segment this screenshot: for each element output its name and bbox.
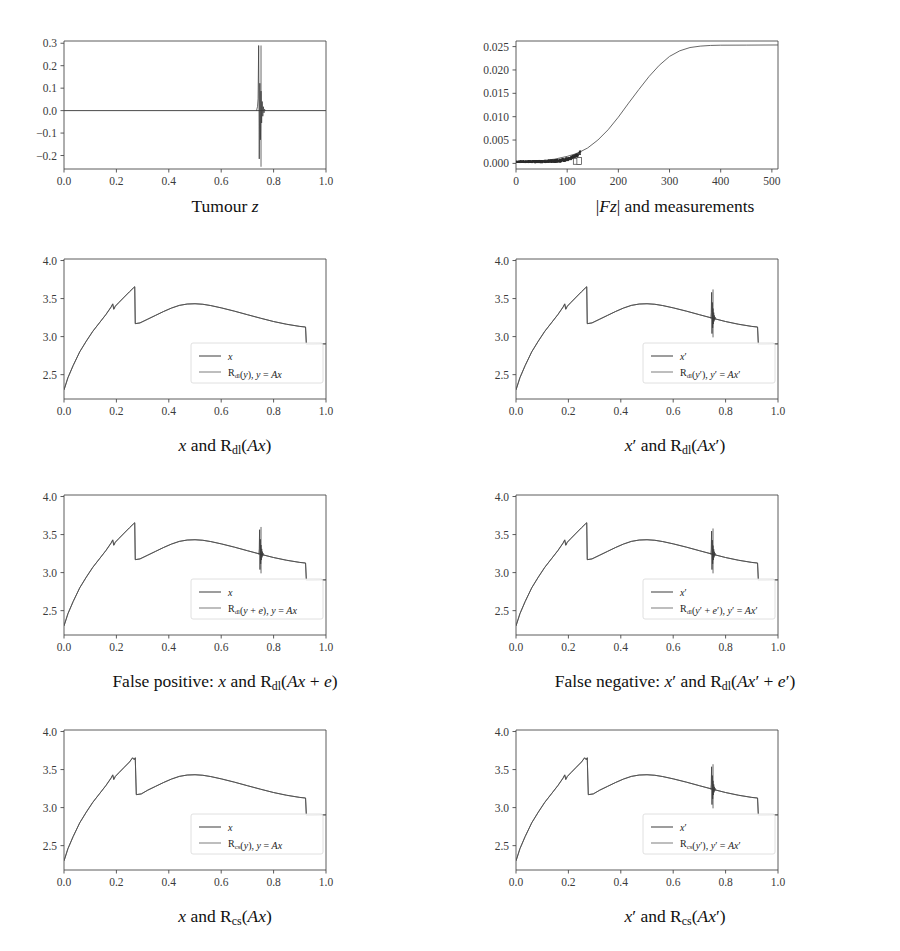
legend[interactable]: x′Rcs(y′), y′ = Ax′ — [643, 814, 775, 854]
legend-label: x′ — [679, 351, 687, 362]
x-tick-label: 0.8 — [718, 641, 733, 653]
y-tick-label: 2.5 — [495, 605, 510, 617]
x-tick-label: 200 — [610, 175, 628, 187]
y-tick-label: 2.5 — [495, 840, 510, 852]
x-tick-label: 1.0 — [319, 641, 334, 653]
subplot-x-and-Rdl-Ax: 0.00.20.40.60.81.04.03.53.02.5xRdl(y), y… — [0, 232, 450, 457]
subplot-caption-xp-and-Rdl-Axp: x′ and Rdl(Ax′) — [450, 437, 900, 457]
y-tick-label: 4.0 — [43, 255, 58, 267]
subplot-x-and-Rcs-Ax: 0.00.20.40.60.81.04.03.53.02.5xRcs(y), y… — [0, 703, 450, 928]
y-tick-label: 4.0 — [495, 491, 510, 503]
y-tick-label: 4.0 — [495, 255, 510, 267]
y-tick-label: 0.3 — [43, 37, 58, 49]
y-tick-label: −0.1 — [36, 127, 57, 139]
y-tick-label: 2.5 — [495, 369, 510, 381]
legend[interactable]: x′Rdl(y′), y′ = Ax′ — [643, 343, 775, 383]
x-tick-label: 0.8 — [266, 405, 281, 417]
x-tick-label: 500 — [763, 175, 781, 187]
subplot-caption-x-and-Rcs-Ax: x and Rcs(Ax) — [0, 908, 450, 928]
y-tick-label: 4.0 — [495, 726, 510, 738]
y-tick-label: 3.5 — [43, 764, 58, 776]
plot-area-false-positive: 0.00.20.40.60.81.04.03.53.02.5xRdl(y + e… — [0, 468, 450, 673]
x-tick-label: 1.0 — [771, 641, 786, 653]
y-tick-label: 0.025 — [483, 41, 509, 53]
fz-curve — [516, 45, 778, 162]
legend-label: x — [227, 587, 233, 598]
subplot-caption-tumour-z: Tumour z — [0, 198, 450, 216]
x-tick-label: 0.6 — [666, 876, 681, 888]
x-tick-label: 0.6 — [214, 405, 229, 417]
legend[interactable]: x′Rdl(y′ + e′), y′ = Ax′ — [643, 579, 775, 619]
subplot-caption-Fz-and-measurements: |Fz| and measurements — [450, 198, 900, 216]
plot-area-false-negative: 0.00.20.40.60.81.04.03.53.02.5x′Rdl(y′ +… — [450, 468, 900, 673]
x-tick-label: 0.2 — [109, 641, 124, 653]
x-tick-label: 0.0 — [509, 405, 524, 417]
y-tick-label: 3.0 — [495, 331, 510, 343]
y-tick-label: 2.5 — [43, 605, 58, 617]
plot-area-x-and-Rdl-Ax: 0.00.20.40.60.81.04.03.53.02.5xRdl(y), y… — [0, 232, 450, 437]
subplot-Fz-and-measurements: 01002003004005000.0250.0200.0150.0100.00… — [450, 0, 900, 216]
x-tick-label: 1.0 — [771, 405, 786, 417]
x-tick-label: 0.6 — [214, 175, 229, 187]
legend[interactable]: xRdl(y + e), y = Ax — [191, 579, 323, 619]
legend-label: x′ — [679, 822, 687, 833]
legend-label: x′ — [679, 587, 687, 598]
y-tick-label: 0.0 — [43, 105, 58, 117]
y-tick-label: −0.2 — [36, 150, 57, 162]
x-tick-label: 0.4 — [162, 876, 177, 888]
x-tick-label: 0.0 — [57, 876, 72, 888]
y-tick-label: 3.5 — [495, 764, 510, 776]
plot-area-Fz-and-measurements: 01002003004005000.0250.0200.0150.0100.00… — [450, 0, 900, 200]
x-tick-label: 0.4 — [162, 175, 177, 187]
subplot-caption-xp-and-Rcs-Axp: x′ and Rcs(Ax′) — [450, 908, 900, 928]
x-tick-label: 0.0 — [509, 876, 524, 888]
x-tick-label: 0.8 — [718, 876, 733, 888]
x-tick-label: 0.4 — [614, 405, 629, 417]
y-tick-label: 2.5 — [43, 369, 58, 381]
x-tick-label: 0.0 — [57, 175, 72, 187]
y-tick-label: 0.005 — [483, 134, 509, 146]
y-tick-label: 3.5 — [495, 529, 510, 541]
legend-label: x — [227, 351, 233, 362]
x-tick-label: 0.4 — [162, 641, 177, 653]
subplot-tumour-z: 0.00.20.40.60.81.00.30.20.10.0−0.1−0.2Tu… — [0, 0, 450, 216]
y-tick-label: 2.5 — [43, 840, 58, 852]
figure-root: 0.00.20.40.60.81.00.30.20.10.0−0.1−0.2Tu… — [0, 0, 900, 951]
x-tick-label: 0.2 — [109, 175, 124, 187]
plot-area-tumour-z: 0.00.20.40.60.81.00.30.20.10.0−0.1−0.2 — [0, 0, 450, 200]
x-tick-label: 0.6 — [214, 876, 229, 888]
x-tick-label: 1.0 — [319, 405, 334, 417]
x-tick-label: 0.6 — [666, 405, 681, 417]
y-tick-label: 3.0 — [495, 802, 510, 814]
plot-area-xp-and-Rdl-Axp: 0.00.20.40.60.81.04.03.53.02.5x′Rdl(y′),… — [450, 232, 900, 437]
y-tick-label: 4.0 — [43, 491, 58, 503]
legend-label: x — [227, 822, 233, 833]
x-tick-label: 1.0 — [319, 876, 334, 888]
y-tick-label: 0.000 — [483, 157, 509, 169]
x-tick-label: 0.4 — [162, 405, 177, 417]
y-tick-label: 3.0 — [43, 331, 58, 343]
subplot-caption-x-and-Rdl-Ax: x and Rdl(Ax) — [0, 437, 450, 457]
axes-frame — [64, 41, 326, 169]
x-tick-label: 0.2 — [109, 405, 124, 417]
x-tick-label: 0.2 — [561, 405, 576, 417]
legend[interactable]: xRcs(y), y = Ax — [191, 814, 323, 854]
x-tick-label: 1.0 — [771, 876, 786, 888]
x-tick-label: 0.8 — [266, 876, 281, 888]
subplot-xp-and-Rcs-Axp: 0.00.20.40.60.81.04.03.53.02.5x′Rcs(y′),… — [450, 703, 900, 928]
x-tick-label: 0.2 — [109, 876, 124, 888]
subplot-false-negative: 0.00.20.40.60.81.04.03.53.02.5x′Rdl(y′ +… — [450, 468, 900, 693]
subplot-caption-false-negative: False negative: x′ and Rdl(Ax′ + e′) — [450, 673, 900, 693]
subplot-xp-and-Rdl-Axp: 0.00.20.40.60.81.04.03.53.02.5x′Rdl(y′),… — [450, 232, 900, 457]
x-tick-label: 400 — [712, 175, 730, 187]
legend-label: Rdl(y′ + e′), y′ = Ax′ — [680, 603, 758, 617]
subplot-caption-false-positive: False positive: x and Rdl(Ax + e) — [0, 673, 450, 693]
y-tick-label: 0.020 — [483, 64, 509, 76]
x-tick-label: 1.0 — [319, 175, 334, 187]
x-tick-label: 0.8 — [266, 175, 281, 187]
legend[interactable]: xRdl(y), y = Ax — [191, 343, 323, 383]
x-tick-label: 0.8 — [718, 405, 733, 417]
measurement-markers — [515, 151, 581, 165]
y-tick-label: 0.010 — [483, 111, 509, 123]
y-tick-label: 3.5 — [43, 529, 58, 541]
